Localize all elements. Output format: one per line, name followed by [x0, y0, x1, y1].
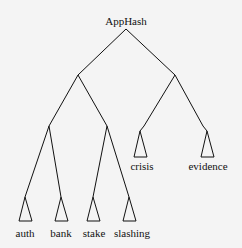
edge [93, 126, 107, 197]
leaf-label-crisis: crisis [130, 160, 153, 172]
edge [107, 126, 129, 197]
leaf-label-bank: bank [50, 227, 71, 239]
edge [49, 75, 78, 126]
subtree-triangle-stake [87, 197, 100, 221]
edge [78, 29, 126, 75]
tree-diagram [0, 0, 242, 248]
edge [49, 126, 61, 197]
subtree-triangle-crisis [134, 131, 147, 157]
leaf-label-stake: stake [83, 227, 106, 239]
leaf-label-slashing: slashing [114, 227, 150, 239]
edge [126, 29, 175, 75]
edge [203, 126, 207, 131]
edge [144, 75, 175, 126]
subtree-triangle-auth [19, 197, 32, 221]
edge [25, 126, 49, 197]
root-label: AppHash [105, 15, 147, 27]
subtree-triangle-bank [55, 197, 68, 221]
subtree-triangle-slashing [123, 197, 136, 221]
subtree-triangle-evidence [201, 131, 214, 157]
leaf-label-auth: auth [16, 227, 35, 239]
edge [78, 75, 107, 126]
leaf-label-evidence: evidence [188, 160, 227, 172]
edge [175, 75, 203, 126]
edge [140, 126, 144, 131]
